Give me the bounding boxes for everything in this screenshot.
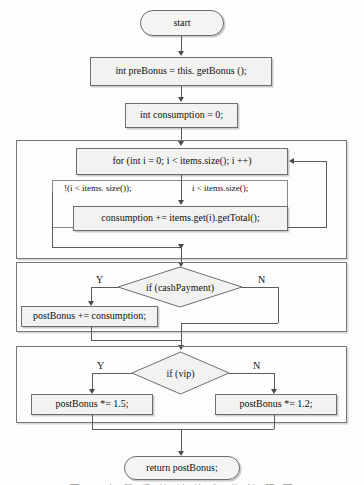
node-if-cash-payment-label: if (cashPayment) <box>146 282 214 293</box>
node-post-bonus-add-label: postBonus += consumption; <box>33 311 146 322</box>
connector-cash-no-h <box>242 287 278 288</box>
connector-postbonus-down <box>91 327 92 340</box>
node-for-loop-label: for (int i = 0; i < items.size(); i ++) <box>112 156 251 167</box>
flowchart-canvas: start int preBonus = this. getBonus (); … <box>0 0 364 485</box>
node-loop-body[interactable]: consumption += items.get(i).getTotal(); <box>73 206 288 231</box>
figure-caption: 图 一 点 餐 系 统 计 算 积 分 流 程 图 <box>0 481 364 485</box>
arrowhead-loop-body <box>178 200 184 205</box>
arrowhead-prebonus <box>178 51 184 56</box>
node-consumption-init[interactable]: int consumption = 0; <box>125 103 238 128</box>
node-loop-body-label: consumption += items.get(i).getTotal(); <box>101 213 259 224</box>
connector-loopback-top <box>294 161 326 162</box>
edge-label-vip-no: N <box>253 360 260 371</box>
node-start-label: start <box>173 18 190 29</box>
node-return[interactable]: return postBonus; <box>124 456 240 480</box>
node-pre-bonus[interactable]: int preBonus = this. getBonus (); <box>90 57 272 86</box>
node-vip-no[interactable]: postBonus *= 1.2; <box>215 394 337 415</box>
connector-postbonus-join <box>91 340 181 341</box>
node-post-bonus-add[interactable]: postBonus += consumption; <box>21 306 158 327</box>
connector-cash-yes-h <box>91 287 118 288</box>
node-return-label: return postBonus; <box>146 463 217 474</box>
connector-vip-yes-merge-v <box>92 415 93 429</box>
connector-vip-no-merge-v <box>274 415 275 429</box>
connector-cash-to-vip <box>181 323 182 347</box>
edge-label-loop-exit: !(i < items. size()); <box>64 183 132 193</box>
connector-vip-yes-h <box>92 373 132 374</box>
connector-loopback-bottom <box>288 227 326 228</box>
connector-loop-exit-left <box>52 192 53 247</box>
node-start[interactable]: start <box>140 10 224 36</box>
node-vip-yes-label: postBonus *= 1.5; <box>55 399 128 410</box>
node-if-cash-payment[interactable]: if (cashPayment) <box>117 266 243 308</box>
arrowhead-consumption <box>178 97 184 102</box>
connector-loop-exit-bottom <box>52 247 181 248</box>
node-if-vip-label: if (vip) <box>166 368 194 379</box>
edge-label-vip-yes: Y <box>97 360 104 371</box>
node-vip-no-label: postBonus *= 1.2; <box>239 399 312 410</box>
arrowhead-loopback <box>289 158 294 164</box>
node-vip-yes[interactable]: postBonus *= 1.5; <box>31 394 153 415</box>
connector-loopback-right <box>326 161 327 228</box>
connector-for-to-body <box>181 175 182 202</box>
node-if-vip[interactable]: if (vip) <box>131 351 230 395</box>
connector-vip-no-h <box>229 373 274 374</box>
node-pre-bonus-label: int preBonus = this. getBonus (); <box>115 66 246 77</box>
connector-vip-merge-h <box>92 429 274 430</box>
edge-label-cash-no: N <box>258 274 265 285</box>
node-consumption-init-label: int consumption = 0; <box>140 110 223 121</box>
connector-start-to-prebonus <box>181 36 182 52</box>
node-for-loop[interactable]: for (int i = 0; i < items.size(); i ++) <box>76 148 288 175</box>
edge-label-loop-continue: i < items.size(); <box>192 183 248 193</box>
connector-cash-no-v <box>278 287 279 323</box>
edge-label-cash-yes: Y <box>96 274 103 285</box>
connector-cash-no-join <box>181 323 278 324</box>
